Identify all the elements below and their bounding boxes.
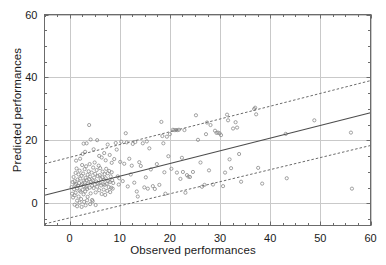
data-point (80, 205, 83, 208)
data-point (141, 142, 144, 145)
data-point (228, 158, 231, 161)
data-point (261, 182, 264, 185)
data-point (90, 171, 93, 174)
data-point (143, 186, 146, 189)
data-point (204, 133, 207, 136)
data-point (223, 171, 226, 174)
data-point (84, 204, 87, 207)
x-tick-label: 20 (164, 232, 176, 244)
data-point (349, 131, 352, 134)
x-tick-label: 60 (364, 232, 376, 244)
x-tick-label: 10 (114, 232, 126, 244)
data-point (285, 177, 288, 180)
scatter-plot-figure: Predicted performances Observed performa… (0, 0, 386, 265)
data-point (98, 189, 101, 192)
x-tick-label: 40 (264, 232, 276, 244)
data-point (183, 128, 186, 131)
data-point (108, 153, 111, 156)
data-point (78, 169, 81, 172)
y-tick-label: 40 (25, 71, 37, 83)
data-point (139, 164, 142, 167)
data-point (93, 161, 96, 164)
data-point (88, 123, 91, 126)
data-point (94, 191, 97, 194)
data-point (180, 156, 183, 159)
x-tick-label: 50 (314, 232, 326, 244)
data-point (162, 142, 165, 145)
axes-layer (45, 15, 372, 226)
data-point (191, 170, 194, 173)
data-point (100, 156, 103, 159)
data-point (104, 159, 107, 162)
y-tick-label: 60 (25, 9, 37, 21)
x-axis-label: Observed performances (0, 244, 386, 256)
data-point (229, 167, 232, 170)
data-point (153, 187, 156, 190)
data-layer (45, 81, 371, 224)
data-point (106, 143, 109, 146)
data-point (138, 161, 141, 164)
data-point (175, 171, 178, 174)
data-point (86, 199, 89, 202)
data-point (148, 147, 151, 150)
data-point (350, 187, 353, 190)
data-point (194, 114, 197, 117)
data-point (167, 155, 170, 158)
regression-line (45, 113, 371, 196)
data-point (99, 167, 102, 170)
data-point (104, 193, 107, 196)
data-point (221, 185, 224, 188)
data-point (234, 121, 237, 124)
data-point (79, 157, 82, 160)
data-point (136, 195, 139, 198)
data-point (121, 180, 124, 183)
data-point (92, 166, 95, 169)
data-point (128, 157, 131, 160)
data-point (133, 181, 136, 184)
data-point (89, 192, 92, 195)
data-point (115, 148, 118, 151)
data-point (95, 168, 98, 171)
data-point (89, 202, 92, 205)
data-point (160, 120, 163, 123)
data-point (255, 113, 258, 116)
data-point (88, 162, 91, 165)
data-point (135, 190, 138, 193)
y-tick-label: 0 (31, 197, 37, 209)
data-point (113, 157, 116, 160)
data-point (165, 135, 168, 138)
data-point (179, 177, 182, 180)
data-point (75, 167, 78, 170)
data-point (144, 176, 147, 179)
data-point (199, 161, 202, 164)
y-axis-label: Predicted performances (11, 30, 23, 190)
data-point (209, 123, 212, 126)
data-point (126, 185, 129, 188)
data-point (100, 192, 103, 195)
data-point (72, 175, 75, 178)
data-point (231, 127, 234, 130)
data-point (313, 119, 316, 122)
data-point (105, 167, 108, 170)
data-point (93, 176, 96, 179)
data-point (110, 161, 113, 164)
data-point (158, 183, 161, 186)
data-point (75, 159, 78, 162)
plot-canvas (0, 0, 386, 265)
data-point (85, 165, 88, 168)
upper-prediction-bound (45, 81, 371, 164)
data-point (161, 134, 164, 137)
data-point (225, 113, 228, 116)
data-point (81, 163, 84, 166)
y-tick-label: 20 (25, 134, 37, 146)
data-point (163, 171, 166, 174)
data-point (102, 188, 105, 191)
x-tick-label: 30 (214, 232, 226, 244)
data-point (240, 180, 243, 183)
grid-lines (45, 15, 372, 226)
plot-frame (45, 15, 371, 226)
data-point (155, 162, 158, 165)
data-point (86, 195, 89, 198)
data-point (92, 148, 95, 151)
data-point (76, 205, 79, 208)
